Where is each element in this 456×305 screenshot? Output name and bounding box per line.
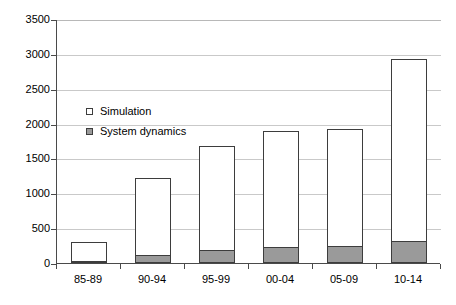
bar-group[interactable] bbox=[391, 19, 427, 263]
y-tick-label: 2000 bbox=[2, 119, 50, 130]
bar-segment-system-dynamics[interactable] bbox=[72, 261, 106, 262]
legend-swatch-simulation-icon bbox=[86, 108, 93, 115]
gridline bbox=[57, 20, 441, 21]
legend-swatch-system-dynamics-icon bbox=[86, 128, 93, 135]
x-tick-mark bbox=[440, 264, 441, 269]
bar-group[interactable] bbox=[71, 19, 107, 263]
bar-segment-system-dynamics[interactable] bbox=[200, 250, 234, 262]
bar-simulation[interactable] bbox=[135, 178, 171, 263]
x-tick-mark bbox=[120, 264, 121, 269]
x-tick-mark bbox=[56, 264, 57, 269]
gridline bbox=[57, 55, 441, 56]
bar-simulation[interactable] bbox=[199, 146, 235, 263]
gridline bbox=[57, 194, 441, 195]
y-tick-label: 3500 bbox=[2, 14, 50, 25]
x-tick-label: 85-89 bbox=[56, 273, 120, 285]
bar-segment-system-dynamics[interactable] bbox=[328, 246, 362, 262]
x-tick-mark bbox=[184, 264, 185, 269]
bar-group[interactable] bbox=[135, 19, 171, 263]
y-tick-label: 3000 bbox=[2, 49, 50, 60]
y-tick-label: 500 bbox=[2, 223, 50, 234]
bar-simulation[interactable] bbox=[327, 129, 363, 263]
legend-item-system-dynamics: System dynamics bbox=[86, 121, 236, 141]
y-tick-label: 2500 bbox=[2, 84, 50, 95]
y-tick-label: 1000 bbox=[2, 188, 50, 199]
bar-segment-system-dynamics[interactable] bbox=[392, 241, 426, 262]
legend-label-system-dynamics: System dynamics bbox=[100, 125, 186, 137]
gridline bbox=[57, 159, 441, 160]
bar-chart: 0500100015002000250030003500 85-8990-949… bbox=[0, 0, 456, 305]
x-tick-mark bbox=[376, 264, 377, 269]
bar-segment-system-dynamics[interactable] bbox=[264, 247, 298, 262]
x-tick-mark bbox=[248, 264, 249, 269]
x-tick-label: 90-94 bbox=[120, 273, 184, 285]
x-tick-label: 00-04 bbox=[248, 273, 312, 285]
x-tick-label: 95-99 bbox=[184, 273, 248, 285]
legend-item-simulation: Simulation bbox=[86, 101, 236, 121]
gridline bbox=[57, 229, 441, 230]
bar-simulation[interactable] bbox=[263, 131, 299, 263]
plot-area bbox=[56, 20, 440, 264]
y-tick-label: 0 bbox=[2, 258, 50, 269]
x-tick-mark bbox=[312, 264, 313, 269]
bar-simulation[interactable] bbox=[391, 59, 427, 263]
legend-label-simulation: Simulation bbox=[100, 105, 151, 117]
bar-simulation[interactable] bbox=[71, 242, 107, 263]
x-tick-label: 10-14 bbox=[376, 273, 440, 285]
bar-group[interactable] bbox=[263, 19, 299, 263]
bar-group[interactable] bbox=[199, 19, 235, 263]
bar-group[interactable] bbox=[327, 19, 363, 263]
chart-legend: Simulation System dynamics bbox=[86, 101, 236, 141]
y-tick-label: 1500 bbox=[2, 153, 50, 164]
bar-segment-system-dynamics[interactable] bbox=[136, 255, 170, 262]
gridline bbox=[57, 90, 441, 91]
x-tick-label: 05-09 bbox=[312, 273, 376, 285]
